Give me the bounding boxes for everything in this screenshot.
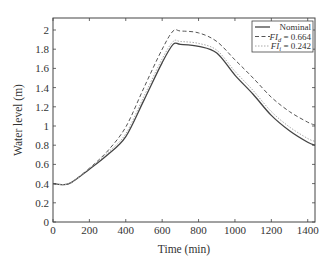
series-line-fi-d	[53, 30, 315, 185]
y-tick-label: 0	[44, 216, 50, 228]
water-level-chart: 020040060080010001200140000.20.40.60.811…	[0, 0, 333, 261]
y-tick-label: 0.6	[35, 158, 49, 170]
x-tick-label: 400	[118, 224, 135, 236]
x-tick-label: 600	[154, 224, 171, 236]
y-axis-label: Water level (m)	[12, 84, 25, 156]
y-tick-label: 1.4	[35, 82, 49, 94]
y-tick-label: 1	[44, 120, 50, 132]
x-tick-label: 1000	[224, 224, 247, 236]
x-tick-label: 1400	[297, 224, 320, 236]
y-tick-label: 2	[44, 24, 50, 36]
y-tick-label: 1.8	[35, 43, 49, 55]
legend: NominalFId = 0.664FIi = 0.242	[252, 21, 313, 52]
plot-area	[53, 30, 315, 185]
series-line-nominal	[53, 43, 315, 185]
x-tick-label: 200	[81, 224, 98, 236]
series-line-fi-i	[53, 40, 315, 184]
x-tick-label: 1200	[260, 224, 283, 236]
x-tick-label: 800	[190, 224, 207, 236]
y-tick-label: 0.4	[35, 178, 49, 190]
y-tick-label: 1.2	[35, 101, 49, 113]
legend-label-0: Nominal	[280, 22, 312, 32]
x-tick-label: 0	[50, 224, 56, 236]
legend-label-2: FIi = 0.242	[270, 41, 311, 52]
y-tick-label: 0.2	[35, 197, 49, 209]
y-tick-label: 0.8	[35, 139, 49, 151]
x-axis-label: Time (min)	[158, 243, 210, 256]
y-tick-label: 1.6	[35, 62, 49, 74]
